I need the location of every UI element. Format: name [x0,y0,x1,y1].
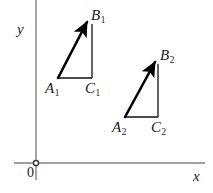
vertex-label-c1-subscript: 1 [96,88,101,98]
vertex-label-b2-letter: B [160,47,169,63]
vertex-label-b1: B1 [91,8,105,25]
triangle-1-vector-arrow [58,22,87,78]
vertex-label-c1-letter: C [85,80,95,96]
vertex-label-b2: B2 [160,48,174,65]
vertex-label-c2-subscript: 2 [162,127,167,137]
origin-label: 0 [27,166,34,180]
vertex-label-a2: A2 [112,120,126,137]
vertex-label-a1: A1 [45,81,59,98]
triangle-2-vector-arrow [125,62,155,117]
vertex-label-c2-letter: C [151,119,161,135]
vertex-label-a1-letter: A [45,80,54,96]
vertex-label-b1-letter: B [91,7,100,23]
axes-group [14,0,205,180]
triangle-1-group [58,22,92,78]
vertex-label-c1: C1 [85,81,100,98]
x-axis-label: x [193,169,200,184]
vertex-label-a2-subscript: 2 [122,127,127,137]
origin-marker [33,160,38,165]
vertex-label-a1-subscript: 1 [55,88,60,98]
vertex-label-c2: C2 [151,120,166,137]
triangle-2-group [125,62,158,117]
vertex-label-a2-letter: A [112,119,121,135]
vertex-label-b1-subscript: 1 [101,15,106,25]
geometry-figure: y x 0 B1 A1 C1 B2 A2 C2 [0,0,213,193]
vertex-label-b2-subscript: 2 [170,55,175,65]
y-axis-label: y [17,22,24,37]
